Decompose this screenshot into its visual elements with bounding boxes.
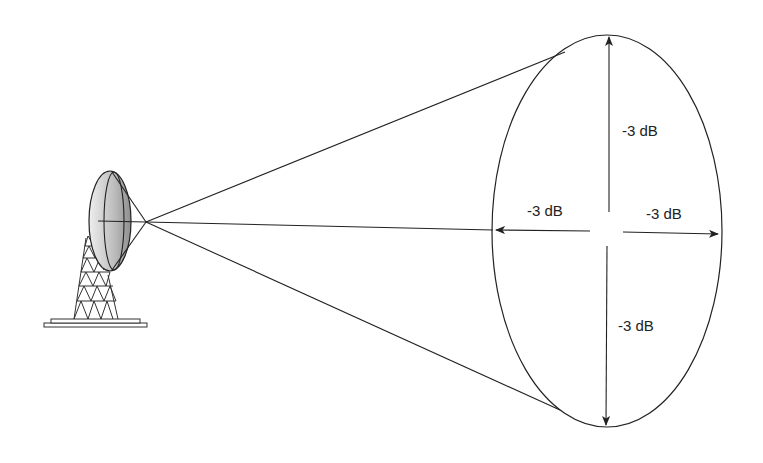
arrow-down [606,246,607,425]
beam-cross-section-ellipse [492,35,722,427]
beam-cone [146,52,565,410]
parabolic-dish [89,171,146,271]
base-plate [44,319,147,327]
label-right-minus3db: -3 dB [646,205,682,222]
arrow-left [496,230,590,231]
label-left-minus3db: -3 dB [527,202,563,219]
antenna-beam-diagram: -3 dB -3 dB -3 dB -3 dB [0,0,763,463]
label-bottom-minus3db: -3 dB [618,317,654,334]
half-power-arrows [496,37,718,425]
arrow-right [623,232,718,234]
label-top-minus3db: -3 dB [622,122,658,139]
